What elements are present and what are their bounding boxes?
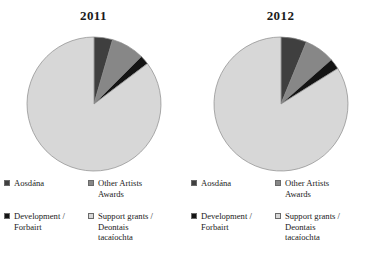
pie-chart-figure: 2011 Aosdána Other Artists Awards Develo…	[0, 0, 374, 268]
legend-item-aosdana[interactable]: Aosdána	[4, 178, 88, 199]
chart-panel-2012: 2012 Aosdána Other Artists Awards Develo…	[187, 0, 374, 268]
legend-item-support-grants[interactable]: Support grants / Deontais tacaíochta	[88, 211, 187, 243]
legend-swatch-aosdana	[4, 180, 10, 186]
legend-swatch-support-grants	[275, 213, 281, 219]
legend-label-aosdana: Aosdána	[201, 178, 231, 189]
legend-item-other-artists-awards[interactable]: Other Artists Awards	[275, 178, 374, 199]
legend-swatch-other-artists-awards	[275, 180, 281, 186]
legend-item-other-artists-awards[interactable]: Other Artists Awards	[88, 178, 187, 199]
pie-chart-2012	[206, 36, 356, 172]
legend-2012: Aosdána Other Artists Awards Development…	[191, 178, 374, 243]
legend-item-aosdana[interactable]: Aosdána	[191, 178, 275, 199]
legend-item-support-grants[interactable]: Support grants / Deontais tacaíochta	[275, 211, 374, 243]
legend-item-development-forbairt[interactable]: Development / Forbairt	[4, 211, 88, 243]
pie-container-2012	[187, 36, 374, 172]
chart-panel-2011: 2011 Aosdána Other Artists Awards Develo…	[0, 0, 187, 268]
legend-label-support-grants: Support grants / Deontais tacaíochta	[98, 211, 153, 243]
legend-swatch-other-artists-awards	[88, 180, 94, 186]
legend-label-other-artists-awards: Other Artists Awards	[285, 178, 329, 199]
pie-slices-2011	[27, 37, 161, 171]
page-title-2011: 2011	[0, 8, 187, 24]
page-title-2012: 2012	[187, 8, 374, 24]
pie-container-2011	[0, 36, 187, 172]
legend-label-support-grants: Support grants / Deontais tacaíochta	[285, 211, 340, 243]
legend-item-development-forbairt[interactable]: Development / Forbairt	[191, 211, 275, 243]
pie-slices-2012	[213, 37, 347, 171]
legend-2011: Aosdána Other Artists Awards Development…	[4, 178, 187, 243]
pie-chart-2011	[19, 36, 169, 172]
legend-swatch-development-forbairt	[191, 213, 197, 219]
legend-label-development-forbairt: Development / Forbairt	[201, 211, 252, 232]
legend-swatch-support-grants	[88, 213, 94, 219]
legend-label-development-forbairt: Development / Forbairt	[14, 211, 65, 232]
legend-label-aosdana: Aosdána	[14, 178, 44, 189]
legend-swatch-development-forbairt	[4, 213, 10, 219]
legend-swatch-aosdana	[191, 180, 197, 186]
legend-label-other-artists-awards: Other Artists Awards	[98, 178, 142, 199]
